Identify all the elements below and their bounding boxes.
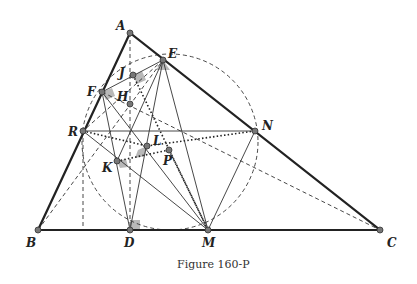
label-r: R (67, 125, 78, 139)
label-h: H (116, 90, 129, 104)
label-l: L (152, 134, 161, 148)
label-k: K (101, 161, 113, 175)
label-e: E (167, 47, 178, 61)
label-a: A (115, 19, 125, 33)
thin-lines (83, 60, 255, 230)
label-p: P (162, 154, 173, 168)
label-b: B (25, 236, 36, 250)
label-d: D (123, 236, 135, 250)
figure-caption: Figure 160-P (177, 258, 250, 271)
label-n: N (261, 119, 274, 133)
label-f: F (86, 85, 97, 99)
label-c: C (387, 236, 397, 250)
triangle-abc (38, 33, 380, 230)
dashed-lines (38, 33, 380, 230)
label-m: M (201, 236, 216, 250)
label-j: J (117, 66, 126, 80)
geometry-figure: A E J F H R N L P K B D M C Figure 160-P (0, 0, 417, 284)
